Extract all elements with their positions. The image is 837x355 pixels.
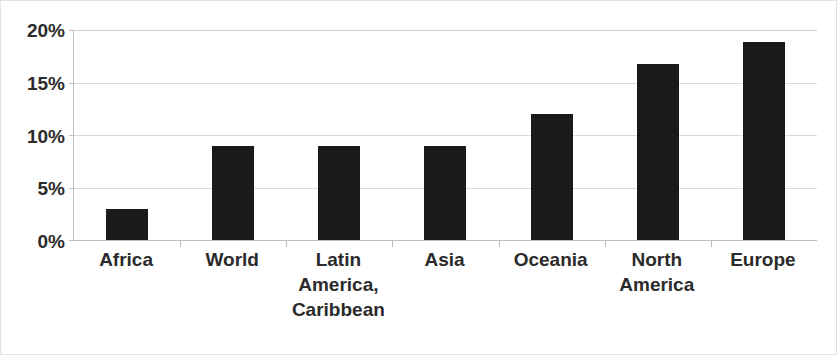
bar-slot [180,30,286,240]
bar[interactable] [743,42,785,240]
bar[interactable] [212,146,254,241]
x-axis-tick-label: NorthAmerica [604,247,710,297]
x-axis-tick [499,240,500,247]
y-axis-tick-label: 0% [5,232,65,251]
y-axis-tick-labels: 0%5%10%15%20% [1,30,65,241]
x-axis-tick-label: Africa [73,247,179,272]
x-axis-label-line: Latin [285,247,391,272]
bar-chart-figure: 0%5%10%15%20% AfricaWorldLatinAmerica,Ca… [0,0,837,355]
x-axis-label-line: World [179,247,285,272]
x-axis-tick-label: LatinAmerica,Caribbean [285,247,391,322]
x-axis-label-line: Africa [73,247,179,272]
x-axis-label-line: Europe [710,247,816,272]
x-axis-tick [711,240,712,247]
x-axis-label-line: Caribbean [285,297,391,322]
x-axis-tick [605,240,606,247]
x-axis-tick-label: Europe [710,247,816,272]
x-axis-tick [286,240,287,247]
bar-slot [286,30,392,240]
x-axis-tick-label: Oceania [498,247,604,272]
bar[interactable] [531,114,573,240]
x-axis-label-line: Asia [391,247,497,272]
x-axis-tick-labels: AfricaWorldLatinAmerica,CaribbeanAsiaOce… [73,247,817,347]
y-axis-tick-label: 15% [5,73,65,92]
y-axis-tick-label: 10% [5,126,65,145]
x-axis-tick-label: Asia [391,247,497,272]
x-axis-tick-label: World [179,247,285,272]
bar-slot [392,30,498,240]
y-axis-tick-label: 5% [5,179,65,198]
bar-slot [711,30,817,240]
bar-slot [74,30,180,240]
bar[interactable] [424,146,466,241]
bar[interactable] [637,64,679,240]
x-axis-tick [180,240,181,247]
bar-slot [605,30,711,240]
x-axis-label-line: America [604,272,710,297]
y-axis-tick-label: 20% [5,21,65,40]
bar-slot [499,30,605,240]
x-axis-label-line: America, [285,272,391,297]
x-axis-label-line: North [604,247,710,272]
x-axis-tick [392,240,393,247]
bar[interactable] [106,209,148,241]
plot-area [73,30,817,241]
y-axis-tick [69,240,74,241]
bar[interactable] [318,146,360,241]
x-axis-label-line: Oceania [498,247,604,272]
